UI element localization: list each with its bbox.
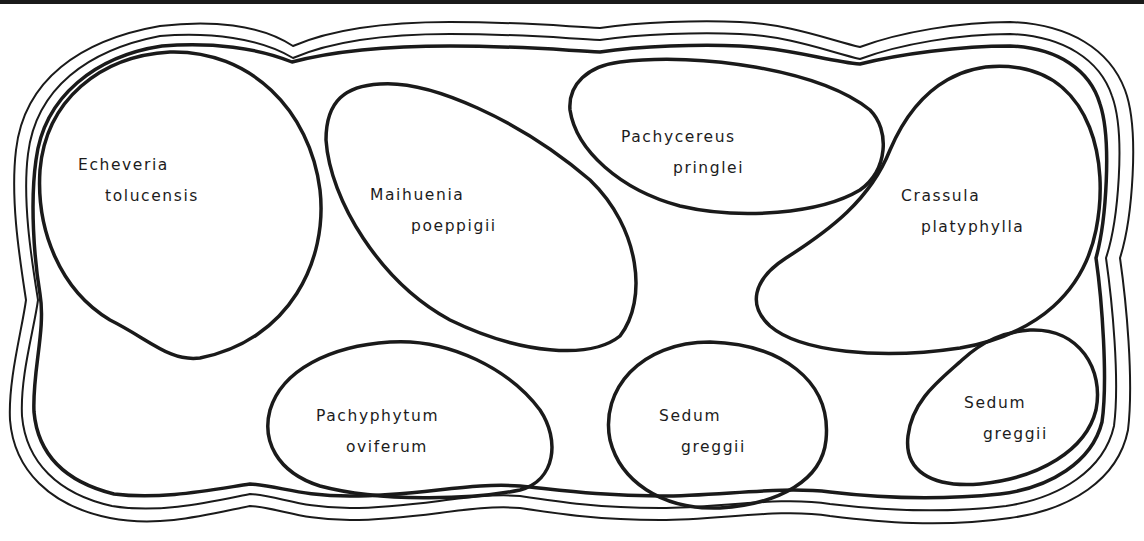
label-species: greggii	[659, 432, 746, 463]
label-sedum-greggii-right: Sedum greggii	[964, 388, 1048, 450]
label-genus: Crassula	[901, 181, 1024, 212]
label-maihuenia-poeppigii: Maihuenia poeppigii	[370, 180, 497, 242]
label-species: poeppigii	[370, 211, 497, 242]
label-genus: Sedum	[659, 401, 746, 432]
label-genus: Pachycereus	[621, 122, 744, 153]
label-genus: Sedum	[964, 388, 1048, 419]
label-pachyphytum-oviferum: Pachyphytum oviferum	[316, 401, 439, 463]
label-genus: Pachyphytum	[316, 401, 439, 432]
label-species: tolucensis	[78, 181, 199, 212]
label-echeveria-tolucensis: Echeveria tolucensis	[78, 150, 199, 212]
label-species: platyphylla	[901, 212, 1024, 243]
label-species: pringlei	[621, 153, 744, 184]
label-sedum-greggii-center: Sedum greggii	[659, 401, 746, 463]
label-pachycereus-pringlei: Pachycereus pringlei	[621, 122, 744, 184]
label-species: greggii	[964, 419, 1048, 450]
label-species: oviferum	[316, 432, 439, 463]
label-crassula-platyphylla: Crassula platyphylla	[901, 181, 1024, 243]
label-genus: Maihuenia	[370, 180, 497, 211]
planting-plan-diagram	[0, 0, 1144, 541]
label-genus: Echeveria	[78, 150, 199, 181]
